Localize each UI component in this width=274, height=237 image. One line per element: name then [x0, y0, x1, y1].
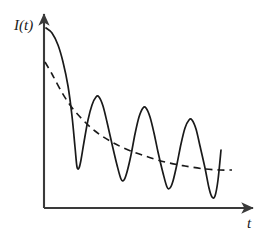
y-axis-label: I(t) — [14, 18, 33, 33]
damped-oscillation-curve — [46, 28, 221, 198]
plot-canvas — [0, 0, 274, 237]
damped-oscillation-figure: I(t) t — [0, 0, 274, 237]
x-axis-label: t — [247, 216, 251, 231]
